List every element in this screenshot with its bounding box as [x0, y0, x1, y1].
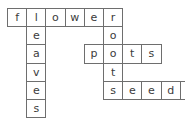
crossword-grid: flowereoapotsvteseedss: [0, 0, 185, 121]
cell-letter: e: [33, 30, 40, 41]
cell-r5c1[interactable]: s: [26, 99, 46, 118]
cell-letter: w: [70, 12, 79, 23]
cell-letter: f: [15, 12, 19, 23]
cell-letter: t: [111, 66, 115, 77]
cell-r0c0[interactable]: f: [7, 8, 27, 27]
cell-letter: s: [149, 48, 155, 59]
cell-letter: o: [110, 48, 117, 59]
cell-r2c7[interactable]: s: [141, 44, 161, 63]
cell-letter: e: [148, 84, 155, 95]
cell-letter: r: [111, 12, 116, 23]
cell-r0c5[interactable]: r: [103, 8, 123, 27]
cell-r0c2[interactable]: o: [45, 8, 65, 27]
cell-letter: s: [110, 84, 116, 95]
cell-letter: e: [33, 84, 40, 95]
cell-r3c5[interactable]: t: [103, 63, 123, 82]
cell-r4c9[interactable]: s: [180, 81, 185, 100]
cell-letter: d: [167, 84, 174, 95]
cell-letter: s: [33, 103, 39, 114]
cell-letter: l: [35, 12, 38, 23]
cell-letter: v: [33, 66, 40, 77]
cell-letter: p: [90, 48, 97, 59]
cell-r2c6[interactable]: t: [122, 44, 142, 63]
cell-r0c1[interactable]: l: [26, 8, 46, 27]
cell-r3c1[interactable]: v: [26, 63, 46, 82]
cell-letter: e: [129, 84, 136, 95]
cell-r0c3[interactable]: w: [65, 8, 85, 27]
cell-r1c5[interactable]: o: [103, 26, 123, 45]
cell-r1c1[interactable]: e: [26, 26, 46, 45]
cell-r4c1[interactable]: e: [26, 81, 46, 100]
cell-letter: o: [110, 30, 117, 41]
cell-r4c6[interactable]: e: [122, 81, 142, 100]
cell-r2c4[interactable]: p: [84, 44, 104, 63]
cell-r2c5[interactable]: o: [103, 44, 123, 63]
cell-r4c8[interactable]: d: [161, 81, 181, 100]
cell-letter: o: [52, 12, 59, 23]
cell-letter: e: [91, 12, 98, 23]
cell-r0c4[interactable]: e: [84, 8, 104, 27]
cell-letter: a: [33, 48, 40, 59]
cell-r2c1[interactable]: a: [26, 44, 46, 63]
cell-letter: t: [130, 48, 134, 59]
cell-r4c5[interactable]: s: [103, 81, 123, 100]
cell-r4c7[interactable]: e: [141, 81, 161, 100]
